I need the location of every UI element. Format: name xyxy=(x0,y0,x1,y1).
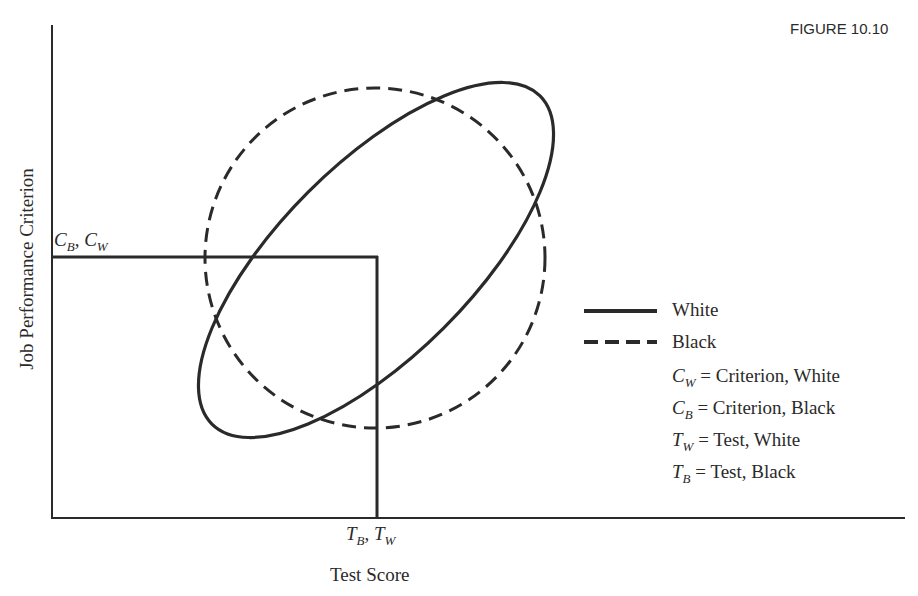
legend-solid-label: White xyxy=(672,299,718,321)
legend-def-tb: TB = Test, Black xyxy=(672,461,796,487)
test-marker: TB, TW xyxy=(346,523,395,549)
y-axis-label: Job Performance Criterion xyxy=(16,149,38,389)
legend-def-cb: CB = Criterion, Black xyxy=(672,397,835,423)
figure-label: FIGURE 10.10 xyxy=(790,20,888,37)
criterion-marker: CB, CW xyxy=(54,229,108,255)
legend-def-cw: CW = Criterion, White xyxy=(672,365,840,391)
legend-def-tw: TW = Test, White xyxy=(672,429,800,455)
x-axis-label: Test Score xyxy=(330,564,409,586)
diagram-canvas xyxy=(0,0,918,596)
legend-dashed-label: Black xyxy=(672,331,716,353)
